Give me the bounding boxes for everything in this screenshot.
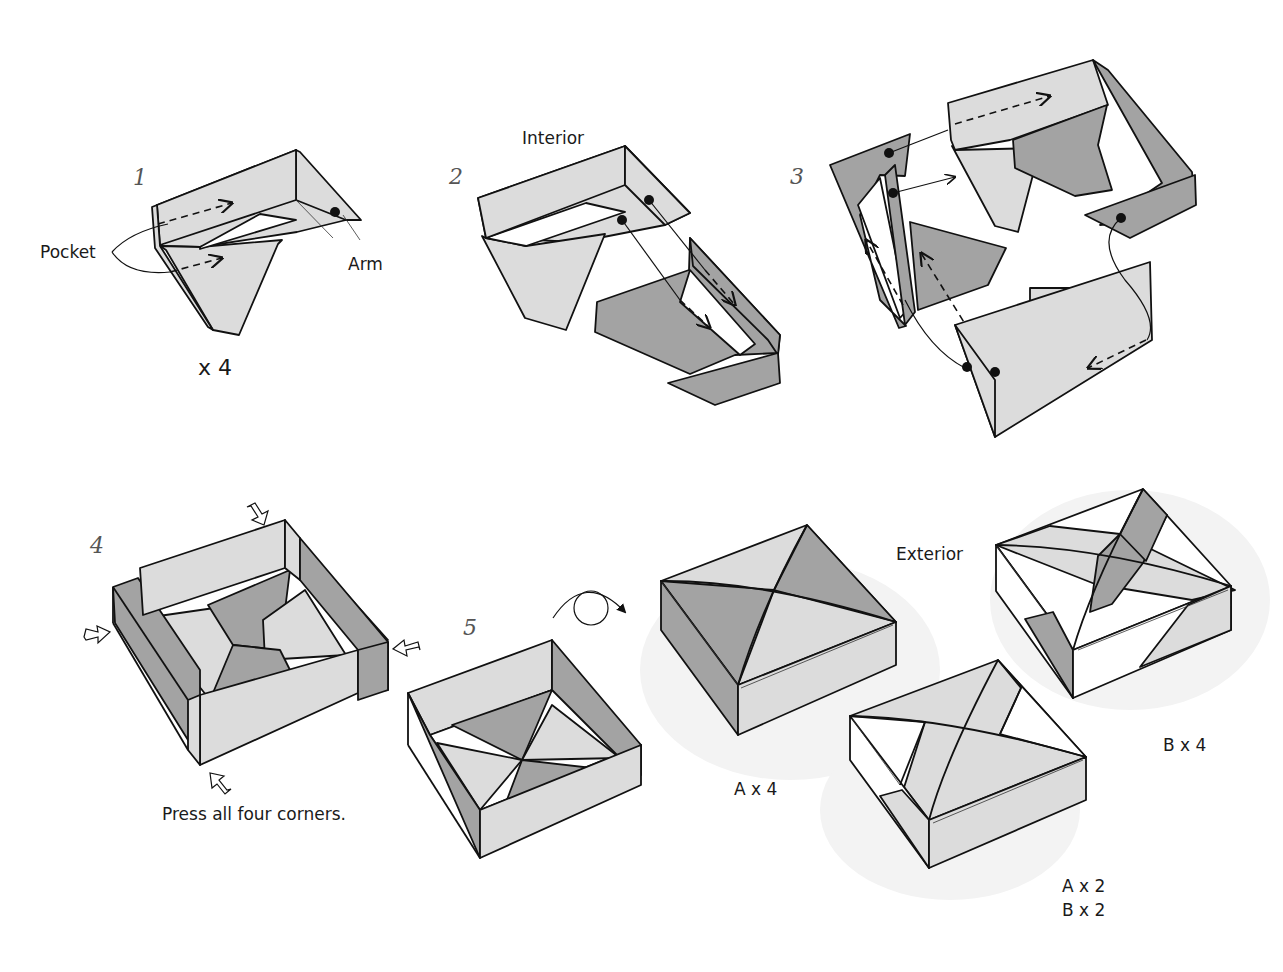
attachment-dot-icon (1116, 213, 1126, 223)
variant-a-label: A x 4 (734, 779, 777, 799)
variant-ab-label-line2: B x 2 (1062, 900, 1105, 920)
variant-ab-label-line1: A x 2 (1062, 876, 1105, 896)
step-5-box-interior (408, 591, 641, 858)
step-3-units (830, 60, 1196, 437)
variant-b-label: B x 4 (1163, 735, 1206, 755)
origami-diagram (0, 0, 1283, 972)
step-number-5: 5 (463, 615, 477, 640)
step-number-3: 3 (790, 164, 804, 189)
arm-label: Arm (348, 254, 383, 274)
attachment-dot-icon (962, 362, 972, 372)
exterior-label: Exterior (896, 544, 963, 564)
attachment-dot-icon (888, 188, 898, 198)
press-corners-instruction: Press all four corners. (162, 804, 346, 824)
attachment-dot-icon (884, 148, 894, 158)
step-4-box-assembly (84, 503, 420, 794)
step-number-4: 4 (90, 533, 104, 558)
interior-label: Interior (522, 128, 584, 148)
attachment-dot-icon (617, 215, 627, 225)
step-number-1: 1 (133, 165, 147, 190)
unit-count-label: x 4 (198, 355, 232, 380)
attachment-dot-icon (330, 207, 340, 217)
step-1-unit (112, 150, 361, 335)
turn-over-icon (553, 591, 625, 625)
result-box-b (990, 489, 1270, 710)
attachment-dot-icon (644, 195, 654, 205)
step-number-2: 2 (449, 164, 463, 189)
pocket-label: Pocket (40, 242, 96, 262)
step-2-units (478, 146, 780, 405)
attachment-dot-icon (990, 367, 1000, 377)
